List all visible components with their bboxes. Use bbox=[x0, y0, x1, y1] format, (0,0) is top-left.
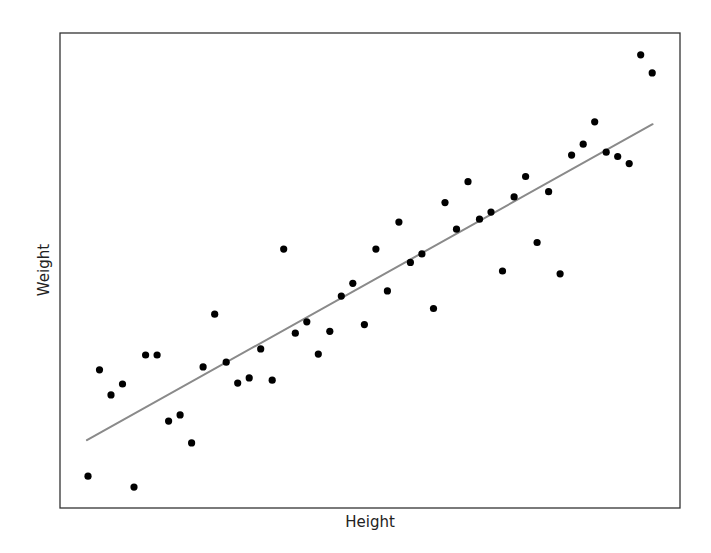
data-point bbox=[453, 226, 460, 233]
data-point bbox=[395, 219, 402, 226]
data-point bbox=[603, 149, 610, 156]
data-point bbox=[338, 293, 345, 300]
x-axis-label: Height bbox=[0, 513, 711, 531]
data-point bbox=[326, 328, 333, 335]
data-point bbox=[407, 259, 414, 266]
data-point bbox=[649, 69, 656, 76]
data-point bbox=[188, 439, 195, 446]
scatter-chart: Height Weight bbox=[0, 0, 711, 553]
data-point bbox=[418, 250, 425, 257]
y-axis-label: Weight bbox=[35, 244, 53, 296]
data-point bbox=[119, 380, 126, 387]
data-point bbox=[257, 345, 264, 352]
data-point bbox=[165, 418, 172, 425]
data-point bbox=[430, 305, 437, 312]
data-point bbox=[280, 246, 287, 253]
data-point bbox=[510, 193, 517, 200]
data-point bbox=[349, 280, 356, 287]
data-point bbox=[154, 351, 161, 358]
data-point bbox=[223, 359, 230, 366]
data-point bbox=[246, 374, 253, 381]
data-point bbox=[545, 188, 552, 195]
data-point bbox=[557, 270, 564, 277]
data-point bbox=[211, 311, 218, 318]
plot-area bbox=[0, 0, 711, 553]
data-point bbox=[292, 330, 299, 337]
data-point bbox=[522, 173, 529, 180]
data-point bbox=[96, 366, 103, 373]
data-point bbox=[384, 287, 391, 294]
data-point bbox=[200, 363, 207, 370]
data-point bbox=[487, 209, 494, 216]
data-point bbox=[107, 391, 114, 398]
data-point bbox=[234, 380, 241, 387]
data-point bbox=[637, 51, 644, 58]
data-point bbox=[476, 216, 483, 223]
data-point bbox=[84, 473, 91, 480]
plot-background bbox=[60, 33, 680, 508]
data-point bbox=[142, 351, 149, 358]
data-point bbox=[372, 246, 379, 253]
data-point bbox=[315, 351, 322, 358]
data-point bbox=[499, 267, 506, 274]
data-point bbox=[130, 484, 137, 491]
data-point bbox=[269, 377, 276, 384]
data-point bbox=[534, 239, 541, 246]
data-point bbox=[303, 318, 310, 325]
data-point bbox=[441, 199, 448, 206]
data-point bbox=[568, 152, 575, 159]
data-point bbox=[626, 160, 633, 167]
data-point bbox=[361, 321, 368, 328]
data-point bbox=[464, 178, 471, 185]
data-point bbox=[614, 153, 621, 160]
data-point bbox=[177, 411, 184, 418]
data-point bbox=[591, 118, 598, 125]
data-point bbox=[580, 141, 587, 148]
